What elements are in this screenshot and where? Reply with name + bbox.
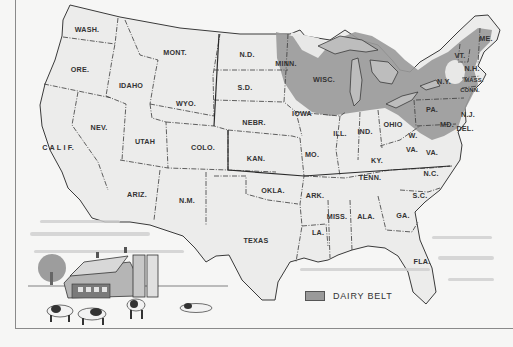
map-legend: DAIRY BELT: [305, 291, 393, 301]
state-label: N.D.: [239, 50, 254, 59]
state-label: MONT.: [163, 48, 186, 57]
state-label: UTAH: [135, 137, 155, 146]
state-label: N.M.: [179, 196, 195, 205]
state-label: NEV.: [91, 123, 108, 132]
state-label: MISS.: [327, 212, 348, 221]
state-label: IND.: [357, 127, 372, 136]
state-label: GA.: [396, 211, 409, 220]
dairy-belt-swatch: [305, 291, 325, 301]
state-label: N.C.: [423, 169, 438, 178]
farm-scene-illustration: [28, 247, 228, 325]
state-label: WISC.: [313, 75, 335, 84]
state-label: TENN.: [359, 173, 382, 182]
barn-icon: [64, 247, 158, 298]
state-label: MASS.: [464, 77, 484, 83]
state-label: WYO.: [176, 99, 196, 108]
state-label: N.Y.: [437, 77, 451, 86]
state-label: OHIO: [383, 120, 402, 129]
cow-icon: [78, 308, 106, 325]
state-label: PA.: [426, 105, 438, 114]
state-label: N.J.: [461, 110, 475, 119]
state-label: VT.: [455, 51, 466, 60]
cow-icon: [127, 299, 145, 319]
us-map: WASH.ORE.IDAHOMONT.WYO.N.D.S.D.NEBR.KAN.…: [0, 0, 513, 347]
state-label: MO.: [305, 150, 319, 159]
map-page: WASH.ORE.IDAHOMONT.WYO.N.D.S.D.NEBR.KAN.…: [0, 0, 513, 347]
state-label: WASH.: [75, 25, 100, 34]
cow-icon: [47, 305, 73, 322]
state-label: VA.: [426, 148, 438, 157]
state-label: S.C.: [413, 191, 428, 200]
state-label: MD.: [440, 120, 454, 129]
state-label: ILL.: [333, 129, 347, 138]
state-label: COLO.: [191, 143, 215, 152]
state-label: ME.: [479, 34, 492, 43]
state-label: N.H.: [464, 64, 479, 73]
state-label: C A L I F.: [42, 143, 74, 152]
state-label: IOWA: [292, 109, 312, 118]
cow-icon: [180, 303, 212, 313]
state-label: OKLA.: [261, 186, 284, 195]
state-label: KAN.: [247, 154, 265, 163]
state-label: ARIZ.: [127, 190, 147, 199]
state-label: FLA.: [414, 257, 431, 266]
state-label: VA.: [406, 145, 418, 154]
state-label: ORE.: [71, 65, 89, 74]
state-label: TEXAS: [244, 236, 269, 245]
state-label: DEL.: [456, 124, 473, 133]
legend-label: DAIRY BELT: [333, 291, 393, 301]
state-label: S.D.: [238, 83, 253, 92]
state-label: CONN.: [460, 87, 480, 93]
state-label: LA.: [312, 228, 324, 237]
state-label: NEBR.: [242, 118, 265, 127]
state-label: MINN.: [275, 59, 296, 68]
state-label: IDAHO: [119, 81, 143, 90]
state-label: ALA.: [357, 212, 375, 221]
state-label: KY.: [371, 156, 383, 165]
state-label: ARK.: [306, 191, 324, 200]
state-label: W.: [409, 131, 418, 140]
